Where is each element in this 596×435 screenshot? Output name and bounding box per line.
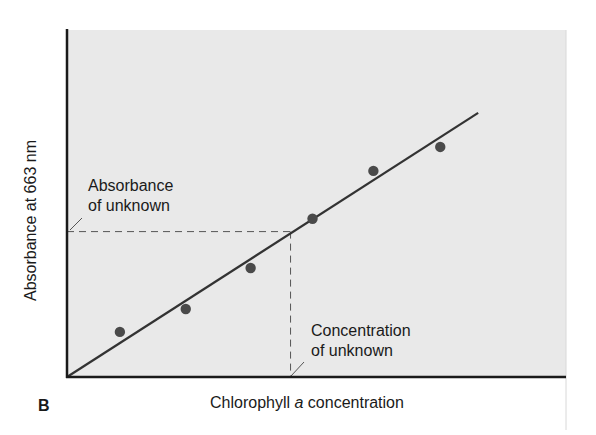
y-axis-label: Absorbance at 663 nm [22, 140, 40, 301]
panel-label: B [38, 397, 50, 415]
x-axis-label-before: Chlorophyll [210, 394, 294, 411]
data-point [181, 304, 191, 314]
annotation-absorbance-unknown: Absorbance of unknown [88, 176, 173, 216]
data-point [307, 214, 317, 224]
x-axis-label-after: concentration [303, 394, 404, 411]
annotation-absorbance-line1: Absorbance [88, 176, 173, 196]
data-point [368, 166, 378, 176]
data-point [115, 327, 125, 337]
annotation-absorbance-line2: of unknown [88, 196, 173, 216]
calibration-chart [0, 0, 596, 435]
x-axis-label: Chlorophyll a concentration [210, 394, 404, 412]
annotation-concentration-line2: of unknown [311, 341, 411, 361]
annotation-concentration-unknown: Concentration of unknown [311, 321, 411, 361]
annotation-concentration-line1: Concentration [311, 321, 411, 341]
data-point [435, 142, 445, 152]
data-point [245, 263, 255, 273]
